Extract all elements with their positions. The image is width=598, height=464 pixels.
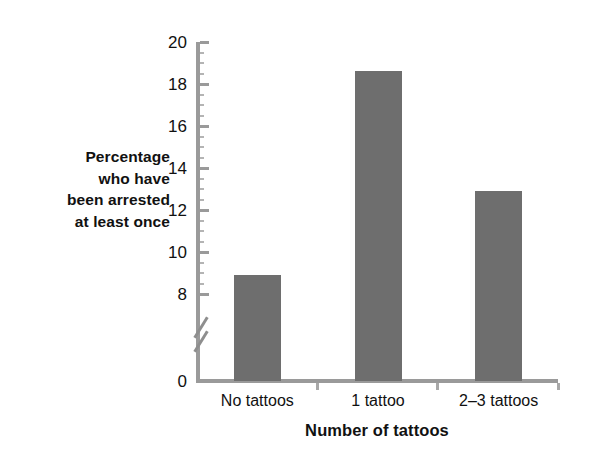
y-tick-label-16: 16 [168,118,187,135]
y-tick-minor [200,262,204,264]
bar [475,191,522,381]
y-tick-18 [200,83,209,86]
y-tick-minor [200,230,204,232]
y-tick-minor [200,283,204,285]
y-tick-16 [200,125,209,128]
y-tick-minor [200,94,204,96]
axis-break-icon [187,316,213,350]
y-axis-title: Percentage who have been arrested at lea… [22,146,170,232]
y-axis-title-line-3: been arrested [22,189,170,211]
y-tick-minor [200,188,204,190]
y-tick-minor [200,52,204,54]
y-tick-label-8: 8 [178,286,187,303]
y-axis-title-line-4: at least once [22,211,170,233]
y-tick-minor [200,157,204,159]
bar [355,71,402,381]
y-tick-label-18: 18 [168,76,187,93]
y-tick-minor [200,241,204,243]
y-tick-12 [200,209,209,212]
y-tick-label-14: 14 [168,160,187,177]
y-tick-10 [200,251,209,254]
y-tick-20 [200,41,209,44]
y-axis-title-line-2: who have [22,168,170,190]
x-tick-label: 2–3 tattoos [459,392,538,410]
y-tick-minor [200,62,204,64]
y-tick-minor [200,199,204,201]
x-tick [436,383,439,390]
y-tick-label-12: 12 [168,202,187,219]
y-tick-minor [200,272,204,274]
y-tick-label-0: 0 [178,373,187,390]
plot-area: 20181614121080 [196,42,558,383]
y-tick-minor [200,178,204,180]
bar-chart: Percentage who have been arrested at lea… [0,0,598,464]
x-axis-title: Number of tattoos [196,421,558,440]
y-tick-14 [200,167,209,170]
y-tick-minor [200,73,204,75]
y-tick-minor [200,115,204,117]
y-tick-label-10: 10 [168,244,187,261]
x-tick-label: No tattoos [221,392,294,410]
y-tick-minor [200,220,204,222]
y-tick-minor [200,136,204,138]
bar [234,275,281,381]
y-axis-title-line-1: Percentage [22,146,170,168]
x-tick-label: 1 tattoo [351,392,404,410]
y-tick-label-20: 20 [168,34,187,51]
y-tick-8 [200,293,209,296]
y-tick-minor [200,146,204,148]
x-tick [557,383,560,390]
x-tick [316,383,319,390]
y-tick-minor [200,104,204,106]
